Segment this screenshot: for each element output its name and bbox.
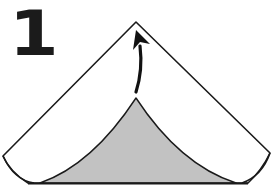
origami-diagram [0, 0, 273, 196]
